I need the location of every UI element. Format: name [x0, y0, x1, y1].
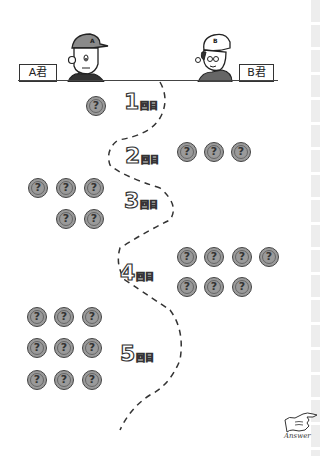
coin: ? — [28, 178, 48, 198]
coin: ? — [82, 307, 102, 327]
coin: ? — [177, 142, 197, 162]
coin: ? — [177, 247, 197, 267]
coin: ? — [259, 247, 279, 267]
round-1-label: 1回目 — [124, 91, 158, 117]
answer-link[interactable]: Answer — [284, 432, 311, 440]
coin: ? — [54, 338, 74, 358]
coin: ? — [204, 277, 224, 297]
dashed-path — [0, 0, 320, 456]
coin: ? — [27, 370, 47, 390]
coin: ? — [82, 338, 102, 358]
round-4-label: 4回目 — [120, 262, 154, 288]
coin: ? — [232, 277, 252, 297]
coin: ? — [56, 178, 76, 198]
round-5-label: 5回目 — [120, 343, 154, 369]
round-2-label: 2回目 — [125, 145, 159, 171]
coin: ? — [177, 277, 197, 297]
coin: ? — [27, 307, 47, 327]
coin: ? — [204, 142, 224, 162]
coin: ? — [54, 307, 74, 327]
coin: ? — [56, 209, 76, 229]
coin: ? — [84, 209, 104, 229]
coin: ? — [27, 338, 47, 358]
coin: ? — [86, 96, 106, 116]
coin: ? — [54, 370, 74, 390]
coin: ? — [204, 247, 224, 267]
coin: ? — [82, 370, 102, 390]
coin: ? — [232, 247, 252, 267]
round-3-label: 3回目 — [124, 190, 158, 216]
coin: ? — [231, 142, 251, 162]
coin: ? — [84, 178, 104, 198]
